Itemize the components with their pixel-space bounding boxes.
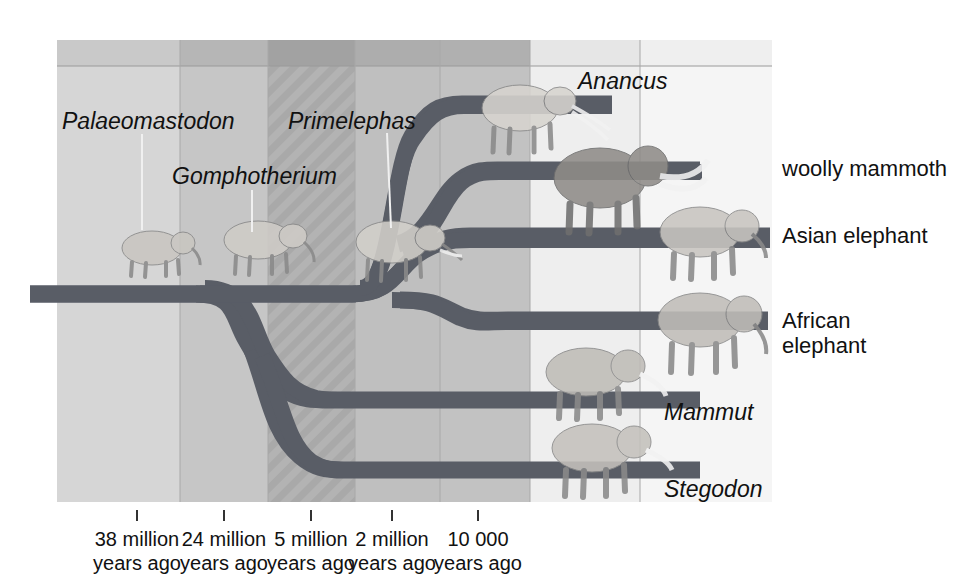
axis-tick-label-4: 10 000 years ago <box>418 527 538 575</box>
taxon-label-stegodon: Stegodon <box>664 476 762 503</box>
taxon-label-anancus: Anancus <box>578 68 668 95</box>
axis-ticks <box>137 510 478 521</box>
evolution-diagram: Palaeomastodon Gomphotherium Primelephas… <box>0 0 968 586</box>
taxon-label-mammut: Mammut <box>664 399 753 426</box>
taxon-label-gomphotherium: Gomphotherium <box>172 163 337 190</box>
axis-tick-label-4-line1: 10 000 <box>418 527 538 551</box>
taxon-label-woolly-mammoth: woolly mammoth <box>782 156 947 182</box>
taxon-label-asian-elephant: Asian elephant <box>782 223 928 249</box>
taxon-label-african-elephant-line1: African <box>782 308 850 334</box>
axis-tick-label-4-line2: years ago <box>418 551 538 575</box>
taxon-label-palaeomastodon: Palaeomastodon <box>62 108 235 135</box>
diagram-canvas <box>0 0 968 586</box>
taxon-label-african-elephant-line2: elephant <box>782 333 866 359</box>
taxon-label-primelephas: Primelephas <box>288 108 416 135</box>
